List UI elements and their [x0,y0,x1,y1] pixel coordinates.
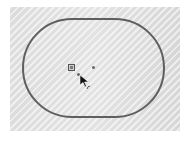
arc-icon [87,86,90,89]
selected-point-marker[interactable] [68,64,75,71]
arrow-cursor-icon [79,74,91,90]
center-point-marker[interactable] [92,66,95,69]
